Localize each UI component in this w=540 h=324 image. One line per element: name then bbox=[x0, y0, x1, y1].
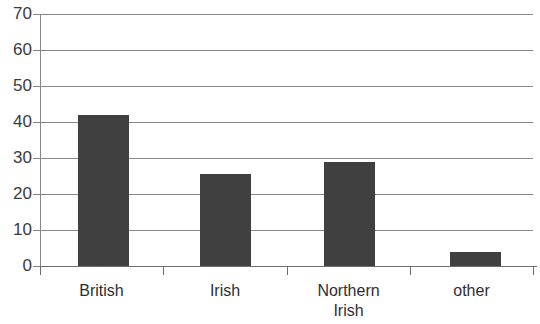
y-tick-label-60: 60 bbox=[0, 41, 32, 58]
y-tick-label-50: 50 bbox=[0, 77, 32, 94]
bar-chart: 70 60 50 40 30 20 10 0 British Irish Nor… bbox=[0, 0, 540, 324]
y-tick-label-40: 40 bbox=[0, 113, 32, 130]
y-tick-label-20: 20 bbox=[0, 185, 32, 202]
y-tick-label-10: 10 bbox=[0, 221, 32, 238]
gridline-50 bbox=[40, 86, 533, 87]
bar-other[interactable] bbox=[450, 252, 501, 266]
y-tick-label-0: 0 bbox=[0, 257, 32, 274]
y-tick-mark-70 bbox=[33, 14, 40, 15]
y-tick-mark-40 bbox=[33, 122, 40, 123]
gridline-70 bbox=[40, 14, 533, 15]
x-category-label-northern-irish-line1: Northern bbox=[317, 282, 379, 299]
x-axis-line bbox=[40, 266, 537, 267]
y-tick-mark-60 bbox=[33, 50, 40, 51]
x-category-label-british-line1: British bbox=[79, 282, 123, 299]
y-tick-mark-0 bbox=[33, 266, 40, 267]
bar-northern-irish[interactable] bbox=[324, 162, 375, 266]
bar-irish[interactable] bbox=[200, 174, 251, 266]
x-tick-mark-4 bbox=[533, 266, 534, 275]
x-category-label-british: British bbox=[40, 281, 163, 301]
x-tick-mark-3 bbox=[410, 266, 411, 275]
x-category-label-irish-line1: Irish bbox=[210, 282, 240, 299]
y-tick-mark-50 bbox=[33, 86, 40, 87]
x-tick-mark-2 bbox=[287, 266, 288, 275]
bar-british[interactable] bbox=[78, 115, 129, 266]
x-category-label-irish: Irish bbox=[163, 281, 287, 301]
y-tick-mark-30 bbox=[33, 158, 40, 159]
x-category-label-other-line1: other bbox=[453, 282, 489, 299]
x-category-label-northern-irish-line2: Irish bbox=[287, 301, 410, 321]
y-axis-line bbox=[40, 14, 41, 272]
x-category-label-northern-irish: Northern Irish bbox=[287, 281, 410, 321]
y-tick-mark-20 bbox=[33, 194, 40, 195]
y-tick-mark-10 bbox=[33, 230, 40, 231]
y-tick-label-30: 30 bbox=[0, 149, 32, 166]
x-tick-mark-1 bbox=[163, 266, 164, 275]
gridline-60 bbox=[40, 50, 533, 51]
x-tick-mark-0 bbox=[40, 266, 41, 275]
x-category-label-other: other bbox=[410, 281, 533, 301]
y-tick-label-70: 70 bbox=[0, 5, 32, 22]
